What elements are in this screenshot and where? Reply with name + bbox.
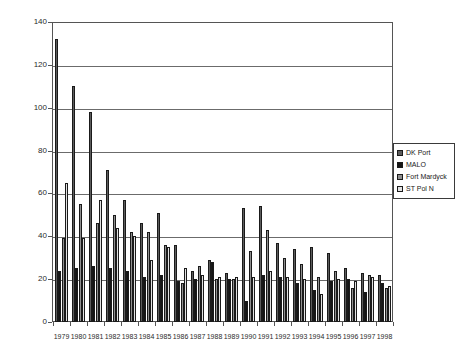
x-axis-tick-label: 1995 — [325, 333, 342, 341]
x-axis-tick-label: 1987 — [189, 333, 206, 341]
bar-group — [308, 22, 325, 322]
bar — [167, 247, 170, 322]
x-axis-tick-mark — [291, 322, 292, 326]
x-axis-tick-label: 1988 — [206, 333, 223, 341]
chart-legend: DK PortMALOFort MardyckST Pol N — [393, 143, 455, 199]
legend-item-label: Fort Mardyck — [406, 173, 447, 181]
x-axis-tick-mark — [359, 322, 360, 326]
bar-group — [376, 22, 393, 322]
x-axis-tick-mark — [223, 322, 224, 326]
x-axis-tick-label: 1981 — [87, 333, 104, 341]
x-axis-tick-label: 1985 — [155, 333, 172, 341]
bar — [320, 294, 323, 322]
bar-group — [70, 22, 87, 322]
bar-group — [104, 22, 121, 322]
bar — [303, 279, 306, 322]
bar — [184, 268, 187, 322]
x-axis-tick-mark — [104, 322, 105, 326]
legend-item[interactable]: ST Pol N — [397, 183, 451, 195]
y-axis-tick-mark — [48, 322, 52, 323]
bar-group — [274, 22, 291, 322]
x-axis-tick-mark — [393, 322, 394, 326]
legend-item-label: MALO — [406, 161, 426, 169]
x-axis-tick-label: 1983 — [121, 333, 138, 341]
y-axis-tick-mark — [48, 236, 52, 237]
x-axis-tick-mark — [206, 322, 207, 326]
legend-swatch-icon — [397, 150, 403, 156]
x-axis-tick-label: 1992 — [274, 333, 291, 341]
x-axis-tick-label: 1984 — [138, 333, 155, 341]
bar — [337, 279, 340, 322]
bar — [201, 275, 204, 322]
bar-group — [325, 22, 342, 322]
bar — [218, 277, 221, 322]
x-axis-tick-mark — [70, 322, 71, 326]
bar — [371, 277, 374, 322]
y-axis-tick-label: 140 — [17, 18, 47, 26]
bar — [269, 271, 272, 322]
x-axis-tick-mark — [53, 322, 54, 326]
x-axis-tick-mark — [325, 322, 326, 326]
bar-group — [155, 22, 172, 322]
legend-item[interactable]: Fort Mardyck — [397, 171, 451, 183]
x-axis-tick-mark — [274, 322, 275, 326]
x-axis-tick-mark — [240, 322, 241, 326]
y-axis-tick-label: 40 — [17, 232, 47, 240]
bar — [286, 277, 289, 322]
bar — [116, 228, 119, 322]
legend-item-label: ST Pol N — [406, 185, 434, 193]
y-axis-tick-label: 60 — [17, 189, 47, 197]
legend-item-label: DK Port — [406, 149, 431, 157]
bar — [388, 286, 391, 322]
x-axis-tick-label: 1994 — [308, 333, 325, 341]
y-axis-tick-mark — [48, 22, 52, 23]
bar-group — [240, 22, 257, 322]
legend-item[interactable]: DK Port — [397, 147, 451, 159]
legend-swatch-icon — [397, 186, 403, 192]
bar — [150, 260, 153, 322]
y-axis-tick-label: 120 — [17, 61, 47, 69]
x-axis-tick-mark — [342, 322, 343, 326]
x-axis-tick-mark — [257, 322, 258, 326]
x-axis-tick-mark — [189, 322, 190, 326]
bar-group — [223, 22, 240, 322]
bar — [65, 183, 68, 322]
x-axis-tick-label: 1993 — [291, 333, 308, 341]
y-axis-tick-mark — [48, 108, 52, 109]
y-axis-tick-mark — [48, 193, 52, 194]
x-axis-tick-label: 1980 — [70, 333, 87, 341]
legend-swatch-icon — [397, 174, 403, 180]
x-axis-tick-mark — [376, 322, 377, 326]
x-axis-tick-label: 1997 — [359, 333, 376, 341]
x-axis-tick-label: 1979 — [53, 333, 70, 341]
y-axis-tick-label: 20 — [17, 275, 47, 283]
bar — [235, 277, 238, 322]
legend-item[interactable]: MALO — [397, 159, 451, 171]
bars-layer — [53, 22, 393, 322]
legend-swatch-icon — [397, 162, 403, 168]
x-axis-tick-mark — [172, 322, 173, 326]
x-axis-tick-label: 1998 — [376, 333, 393, 341]
x-axis-tick-mark — [138, 322, 139, 326]
x-axis-tick-label: 1989 — [223, 333, 240, 341]
x-axis-tick-label: 1990 — [240, 333, 257, 341]
x-axis-tick-mark — [87, 322, 88, 326]
bar-group — [189, 22, 206, 322]
bar — [133, 236, 136, 322]
bar-group — [138, 22, 155, 322]
bar-group — [206, 22, 223, 322]
bar-group — [342, 22, 359, 322]
bar — [99, 200, 102, 322]
x-axis-tick-label: 1996 — [342, 333, 359, 341]
bar-group — [87, 22, 104, 322]
bar-group — [291, 22, 308, 322]
x-axis-tick-mark — [155, 322, 156, 326]
y-axis-tick-label: 80 — [17, 147, 47, 155]
y-axis-tick-mark — [48, 279, 52, 280]
x-axis-tick-label: 1986 — [172, 333, 189, 341]
y-axis-tick-mark — [48, 65, 52, 66]
x-axis-tick-mark — [308, 322, 309, 326]
y-axis-tick-label: 100 — [17, 104, 47, 112]
x-axis-tick-label: 1991 — [257, 333, 274, 341]
y-axis-tick-label: 0 — [17, 318, 47, 326]
